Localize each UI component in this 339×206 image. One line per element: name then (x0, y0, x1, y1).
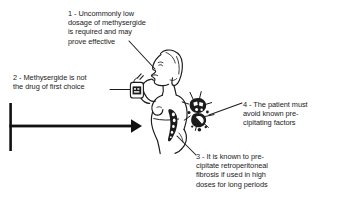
fibrosis-highlight-2 (173, 119, 176, 123)
back-contour (184, 102, 187, 130)
leader-line-4 (209, 103, 242, 115)
cluster-speck-5 (191, 126, 193, 128)
thigh-back (175, 149, 181, 153)
eye (159, 65, 163, 66)
fibrosis-highlight-3 (172, 125, 175, 128)
bottle-cap (134, 78, 138, 82)
bottle-label-mark-1 (134, 88, 136, 90)
cluster-speck-2 (206, 111, 209, 114)
callout-4: 4 - The patient must avoid known pre- ci… (243, 100, 335, 128)
timeline-arrow-shaft (9, 125, 133, 128)
fibrosis-highlight-1 (172, 113, 175, 117)
bottle-label-mark-2 (137, 88, 139, 90)
hair-strand-2 (177, 57, 180, 75)
bottle-label-mark-3 (134, 91, 139, 92)
callout-1: 1 - Uncommonly low dosage of methysergid… (68, 9, 163, 46)
cluster-speck-4 (205, 126, 207, 128)
cluster-speck-3 (198, 128, 202, 132)
neck-front (162, 86, 163, 95)
eyebrow (158, 62, 163, 63)
bottle-neck (140, 75, 144, 79)
timeline-arrow-head (131, 119, 142, 133)
retroperitoneal-fibrosis-shading (168, 109, 177, 141)
leader-lines (110, 41, 242, 155)
cluster-blob-upper (190, 98, 207, 113)
shoulder-back (176, 95, 184, 102)
bust-detail (157, 107, 162, 108)
fibrosis-highlight-4 (171, 131, 173, 134)
timeline-arrow (9, 103, 142, 151)
hair-strand-1 (166, 53, 175, 64)
cluster-blob-lower (191, 113, 206, 127)
abdomen-front (151, 112, 157, 141)
bottle-neck-edge (137, 74, 141, 78)
arm-upper (143, 89, 156, 101)
diagram-canvas: 1 - Uncommonly low dosage of methysergid… (0, 0, 339, 206)
callout-2: 2 - Methysergide is not the drug of firs… (13, 73, 117, 91)
face-profile (151, 55, 168, 86)
neck-back (174, 85, 176, 95)
bust-contour (152, 101, 163, 115)
thigh-front (158, 141, 161, 154)
mouth (153, 75, 158, 76)
hair-strand-3 (170, 79, 177, 81)
cluster-detail-3 (195, 108, 198, 111)
cluster-speck-1 (188, 111, 191, 114)
medicine-bottle (130, 74, 143, 98)
callout-3: 3 - It is known to pre- cipitate retrope… (196, 152, 302, 189)
fibrosis-highlight-5 (170, 136, 172, 138)
cluster-detail-4 (200, 109, 202, 111)
bottle-label (133, 86, 142, 94)
